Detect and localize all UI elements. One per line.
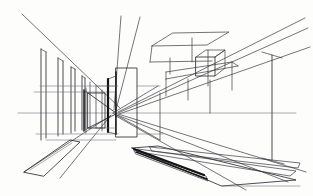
perspective-sketch: [0, 0, 313, 196]
sketch-canvas: [0, 0, 313, 196]
